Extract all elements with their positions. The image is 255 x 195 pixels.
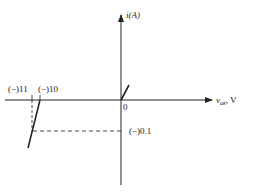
reverse-current-label: (−)0.1 [129,126,151,136]
reverse-voltage-label-11: (−)11 [8,84,28,94]
origin-label: 0 [123,102,128,112]
reverse-breakdown-curve [28,100,40,148]
x-axis-label: vak, V [216,95,237,106]
diode-characteristic-diagram: i(A) vak, V 0 (−)11 (−)10 (−)0.1 [0,0,255,195]
y-axis-label: i(A) [126,10,140,20]
reverse-voltage-label-10: (−)10 [38,84,59,94]
forward-curve [121,85,129,100]
